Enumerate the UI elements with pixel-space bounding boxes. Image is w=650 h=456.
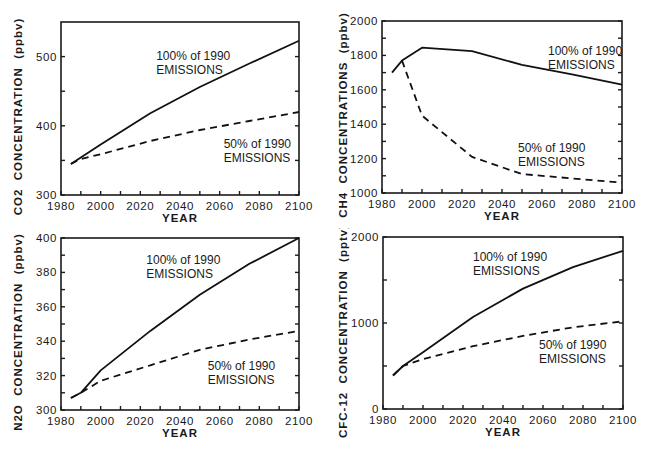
x-tick-label: 2100 [285, 415, 313, 427]
x-tick-label: 2040 [166, 200, 194, 212]
x-axis-title: YEAR [162, 427, 198, 439]
series-50pct-line [402, 61, 622, 183]
annotation-100pct: 100% of 1990EMISSIONS [146, 253, 220, 281]
x-tick-label: 2040 [166, 415, 194, 427]
cfc12-chart-svg: 1980200020202040206020802100010002000YEA… [325, 228, 650, 456]
y-tick-label: 360 [36, 301, 57, 313]
ch4-chart: 1980200020202040206020802100100012001400… [325, 0, 650, 228]
x-tick-label: 2100 [285, 200, 313, 212]
x-tick-label: 1980 [47, 200, 75, 212]
co2-chart-svg: 1980200020202040206020802100300400500YEA… [0, 0, 325, 228]
annotation-50pct: 50% of 1990EMISSIONS [539, 338, 607, 366]
x-tick-label: 1980 [368, 198, 396, 210]
x-tick-label: 1980 [369, 414, 397, 426]
x-tick-label: 2080 [245, 415, 273, 427]
x-axis-title: YEAR [484, 210, 520, 222]
x-tick-label: 2020 [448, 198, 476, 210]
x-tick-label: 2080 [569, 414, 597, 426]
n2o-chart-svg: 1980200020202040206020802100300320340360… [0, 228, 325, 456]
annotation-100pct: 100% of 1990EMISSIONS [156, 49, 230, 77]
y-tick-label: 1200 [350, 153, 378, 165]
y-tick-label: 400 [36, 232, 57, 244]
y-tick-label: 1800 [350, 49, 378, 61]
n2o-chart: 1980200020202040206020802100300320340360… [0, 228, 325, 456]
y-tick-label: 380 [36, 266, 57, 278]
y-tick-label: 1000 [351, 317, 379, 329]
annotation-50pct: 50% of 1990EMISSIONS [208, 359, 276, 387]
y-tick-label: 340 [36, 335, 57, 347]
y-tick-label: 0 [372, 403, 379, 415]
x-axis-title: YEAR [162, 212, 198, 224]
y-tick-label: 400 [36, 120, 57, 132]
annotation-100pct: 100% of 1990EMISSIONS [548, 44, 622, 72]
x-tick-label: 2060 [206, 415, 234, 427]
x-tick-label: 2060 [206, 200, 234, 212]
x-tick-label: 2020 [126, 200, 154, 212]
y-tick-label: 1600 [350, 84, 378, 96]
x-axis-title: YEAR [485, 426, 521, 438]
plot-frame [61, 22, 299, 195]
annotation-100pct: 100% of 1990EMISSIONS [473, 250, 547, 278]
x-tick-label: 2080 [568, 198, 596, 210]
x-tick-label: 2000 [408, 198, 436, 210]
y-axis-title: CO2 CONCENTRATION (ppbv) [12, 18, 24, 216]
y-tick-label: 300 [36, 189, 57, 201]
x-tick-label: 1980 [47, 415, 75, 427]
x-tick-label: 2100 [608, 198, 636, 210]
x-tick-label: 2000 [409, 414, 437, 426]
y-axis-title: N2O CONCENTRATION (ppbv) [12, 233, 24, 431]
x-tick-label: 2080 [245, 200, 273, 212]
x-tick-label: 2040 [489, 414, 517, 426]
y-axis-title: CFC-12 CONCENTRATION (pptv) [337, 228, 349, 438]
y-tick-label: 2000 [351, 231, 379, 243]
annotation-50pct: 50% of 1990EMISSIONS [224, 137, 292, 165]
y-tick-label: 1000 [350, 187, 378, 199]
x-tick-label: 2020 [449, 414, 477, 426]
annotation-50pct: 50% of 1990EMISSIONS [518, 141, 586, 169]
ch4-chart-svg: 1980200020202040206020802100100012001400… [325, 0, 650, 228]
y-tick-label: 2000 [350, 15, 378, 27]
y-tick-label: 320 [36, 370, 57, 382]
x-tick-label: 2000 [87, 200, 115, 212]
y-tick-label: 300 [36, 404, 57, 416]
x-tick-label: 2100 [609, 414, 637, 426]
x-tick-label: 2000 [87, 415, 115, 427]
y-axis-title: CH4 CONCENTRATIONS (ppbv) [337, 12, 349, 218]
x-tick-label: 2060 [528, 198, 556, 210]
x-tick-label: 2040 [488, 198, 516, 210]
y-tick-label: 500 [36, 51, 57, 63]
cfc12-chart: 1980200020202040206020802100010002000YEA… [325, 228, 650, 456]
y-tick-label: 1400 [350, 118, 378, 130]
co2-chart: 1980200020202040206020802100300400500YEA… [0, 0, 325, 228]
x-tick-label: 2060 [529, 414, 557, 426]
x-tick-label: 2020 [126, 415, 154, 427]
